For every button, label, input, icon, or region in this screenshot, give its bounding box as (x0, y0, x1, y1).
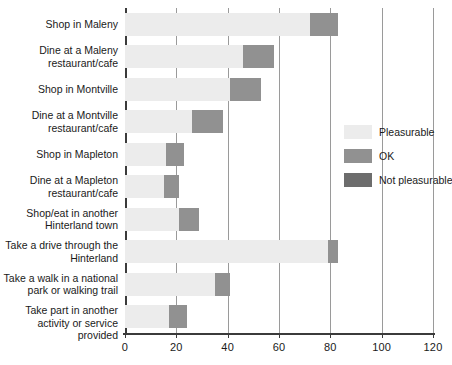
bar-row (125, 208, 199, 231)
category-label: Shop in Montville (0, 83, 118, 96)
x-tick-label-80: 80 (324, 341, 337, 353)
bar-segment-ok (215, 273, 230, 296)
legend-label: OK (379, 150, 394, 162)
x-tick-60 (279, 333, 280, 338)
bar-row (125, 143, 184, 166)
bar-segment-ok (192, 110, 223, 133)
legend-item: OK (344, 146, 452, 165)
bar-segment-ok (243, 45, 274, 68)
category-label: Dine at a Montville restaurant/cafe (0, 109, 118, 134)
bar-segment-pleasurable (125, 273, 215, 296)
bar-segment-pleasurable (125, 208, 179, 231)
legend-item: Pleasurable (344, 122, 452, 141)
legend: PleasurableOKNot pleasurable (344, 122, 452, 194)
legend-label: Pleasurable (379, 126, 434, 138)
x-tick-40 (228, 333, 229, 338)
stacked-bar-chart: Shop in MalenyDine at a Maleny restauran… (0, 0, 452, 365)
bar-segment-ok (166, 143, 184, 166)
bar-segment-pleasurable (125, 305, 169, 328)
bar-segment-pleasurable (125, 143, 166, 166)
bar-segment-ok (230, 78, 261, 101)
gridline-80 (330, 8, 331, 333)
x-tick-100 (382, 333, 383, 338)
x-tick-20 (176, 333, 177, 338)
category-label: Take part in another activity or service… (0, 304, 118, 342)
bar-segment-pleasurable (125, 45, 243, 68)
x-tick-80 (330, 333, 331, 338)
category-label: Shop/eat in another Hinterland town (0, 207, 118, 232)
bar-segment-pleasurable (125, 13, 310, 36)
gridline-60 (279, 8, 280, 333)
category-label: Take a walk in a national park or walkin… (0, 272, 118, 297)
bar-segment-ok (310, 13, 338, 36)
x-tick-label-0: 0 (122, 341, 128, 353)
bar-segment-ok (169, 305, 187, 328)
legend-swatch-notpleas (344, 173, 372, 187)
category-label: Dine at a Mapleton restaurant/cafe (0, 174, 118, 199)
x-tick-label-100: 100 (372, 341, 391, 353)
bar-row (125, 273, 230, 296)
bar-segment-pleasurable (125, 240, 328, 263)
bar-segment-pleasurable (125, 110, 192, 133)
category-label: Shop in Maleny (0, 18, 118, 31)
bar-segment-ok (328, 240, 338, 263)
bar-segment-ok (179, 208, 200, 231)
bar-row (125, 45, 274, 68)
x-tick-label-120: 120 (424, 341, 443, 353)
bar-row (125, 78, 261, 101)
legend-label: Not pleasurable (379, 174, 452, 186)
x-tick-label-40: 40 (221, 341, 234, 353)
category-label: Shop in Mapleton (0, 148, 118, 161)
x-tick-label-60: 60 (273, 341, 286, 353)
bar-segment-pleasurable (125, 78, 230, 101)
legend-swatch-pleasurable (344, 125, 372, 139)
bar-row (125, 13, 338, 36)
legend-item: Not pleasurable (344, 170, 452, 189)
x-tick-label-20: 20 (170, 341, 183, 353)
bar-segment-ok (164, 175, 179, 198)
category-label: Take a drive through the Hinterland (0, 239, 118, 264)
x-tick-120 (433, 333, 434, 338)
bar-row (125, 110, 223, 133)
bar-row (125, 305, 187, 328)
category-label: Dine at a Maleny restaurant/cafe (0, 44, 118, 69)
x-tick-0 (125, 333, 126, 338)
bar-row (125, 240, 338, 263)
legend-swatch-ok (344, 149, 372, 163)
bar-segment-pleasurable (125, 175, 164, 198)
bar-row (125, 175, 179, 198)
